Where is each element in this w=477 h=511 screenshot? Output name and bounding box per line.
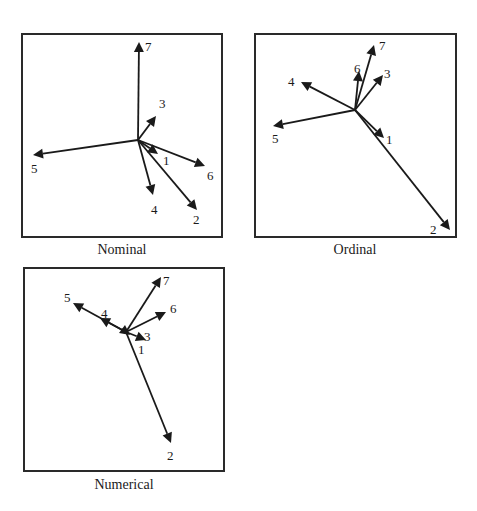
- vector-label: 2: [193, 212, 200, 227]
- nominal-caption: Nominal: [22, 242, 222, 258]
- arrowhead-icon: [366, 45, 376, 56]
- vector-label: 4: [151, 202, 158, 217]
- vector-6: 6: [126, 301, 177, 332]
- vector-5: 5: [272, 110, 355, 146]
- arrowhead-icon: [134, 42, 144, 52]
- vector-1: 1: [355, 110, 393, 147]
- vector-label: 1: [138, 342, 145, 357]
- ordinal-caption: Ordinal: [255, 242, 455, 258]
- numerical-plot: 1234567: [24, 268, 224, 471]
- arrowhead-icon: [33, 149, 44, 159]
- vector-label: 3: [159, 96, 166, 111]
- vector-6: 6: [138, 140, 214, 183]
- vector-label: 2: [430, 222, 437, 237]
- ordinal-plot: 1234567: [255, 34, 456, 237]
- vector-label: 6: [170, 301, 177, 316]
- vector-label: 7: [163, 273, 170, 288]
- arrowhead-icon: [146, 116, 156, 127]
- vector-label: 3: [144, 329, 151, 344]
- vector-2: 2: [355, 110, 450, 237]
- vector-label: 7: [145, 39, 152, 54]
- vector-4: 4: [288, 74, 355, 110]
- vector-label: 1: [163, 153, 170, 168]
- vector-label: 7: [379, 38, 386, 53]
- vector-7: 7: [126, 273, 170, 332]
- arrowhead-icon: [151, 277, 161, 288]
- nominal-plot: 1234567: [22, 34, 222, 237]
- vector-label: 2: [167, 448, 174, 463]
- vector-label: 1: [386, 132, 393, 147]
- vector-label: 6: [207, 168, 214, 183]
- vector-label: 6: [354, 61, 361, 76]
- vector-label: 3: [384, 66, 391, 81]
- arrowhead-icon: [273, 119, 284, 129]
- vector-label: 5: [272, 131, 279, 146]
- vector-5: 5: [64, 290, 126, 332]
- vector-2: 2: [126, 332, 174, 463]
- vector-label: 5: [31, 161, 38, 176]
- arrowhead-icon: [146, 184, 156, 195]
- plot-frame: [24, 268, 224, 471]
- arrowhead-icon: [440, 219, 450, 230]
- vector-3: 3: [138, 96, 166, 140]
- arrowhead-icon: [373, 75, 383, 86]
- vector-5: 5: [31, 140, 138, 176]
- vector-label: 4: [288, 74, 295, 89]
- vector-label: 5: [64, 290, 71, 305]
- numerical-caption: Numerical: [24, 477, 224, 493]
